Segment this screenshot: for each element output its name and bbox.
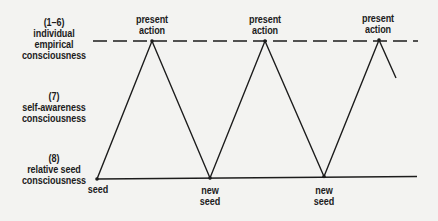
present-action-point-1 — [150, 39, 154, 43]
seed-point — [95, 177, 99, 181]
present-action-point-3 — [377, 38, 381, 42]
new-seed-point-2 — [322, 175, 326, 179]
seed-level-baseline — [97, 177, 417, 180]
present-action-point-2 — [263, 39, 267, 43]
zigzag-cycle-line — [97, 40, 396, 179]
cycle-diagram — [0, 0, 438, 221]
new-seed-point-1 — [208, 176, 212, 180]
